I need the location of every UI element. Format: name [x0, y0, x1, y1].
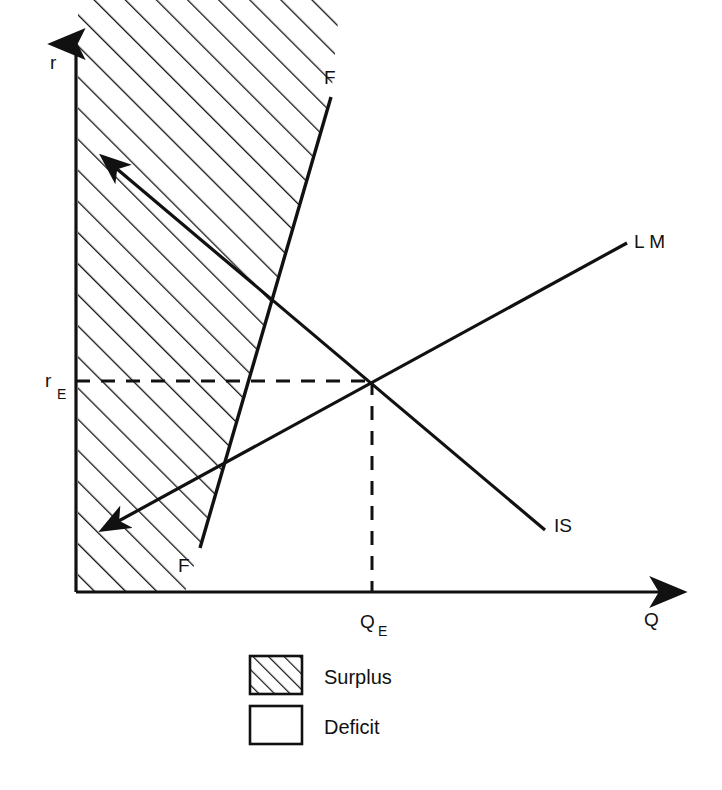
- legend-swatch-surplus: [250, 656, 302, 694]
- legend-label-surplus: Surplus: [324, 666, 392, 688]
- lm-curve-label: L M: [634, 231, 665, 252]
- isl m-f-diagram: r Q F F L M IS r E Q E Surplus Deficit: [0, 0, 722, 790]
- surplus-region: [0, 0, 722, 640]
- legend-swatch-deficit: [250, 706, 302, 744]
- is-curve-label: IS: [554, 515, 572, 536]
- equilibrium-rate-subscript: E: [57, 386, 66, 402]
- f-curve-label-bottom: F: [178, 555, 190, 576]
- y-axis-label: r: [50, 52, 57, 73]
- legend: Surplus Deficit: [250, 656, 392, 744]
- legend-label-deficit: Deficit: [324, 716, 380, 738]
- equilibrium-rate-label: r: [45, 370, 52, 391]
- x-axis-label: Q: [644, 609, 659, 630]
- equilibrium-output-subscript: E: [378, 623, 387, 639]
- equilibrium-output-label: Q: [360, 611, 375, 632]
- diagram-canvas: r Q F F L M IS r E Q E Surplus Deficit: [0, 0, 722, 790]
- f-curve-label-top: F: [324, 67, 336, 88]
